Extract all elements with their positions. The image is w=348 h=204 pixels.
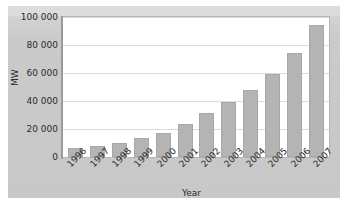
- x-axis-label: Year: [182, 188, 201, 198]
- bar-series: [63, 17, 329, 157]
- chart-screenshot: 020 00040 00060 00080 000100 000 MW 1996…: [0, 0, 348, 204]
- bar-2004: [243, 90, 258, 157]
- y-tick-label: 80 000: [2, 40, 58, 50]
- y-tick-label: 20 000: [2, 124, 58, 134]
- y-axis-spine: [61, 16, 63, 159]
- y-tick-label: 0: [2, 152, 58, 162]
- y-axis-label: MW: [10, 69, 20, 86]
- bar-2005: [265, 74, 280, 157]
- plot-area: [62, 16, 330, 158]
- y-tick-label: 100 000: [2, 12, 58, 22]
- bar-2006: [287, 53, 302, 157]
- bar-2007: [309, 25, 324, 157]
- y-tick-label: 40 000: [2, 96, 58, 106]
